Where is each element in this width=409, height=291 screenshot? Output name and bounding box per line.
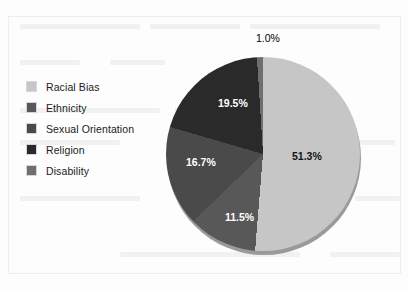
- legend-swatch-icon-disability: [26, 165, 37, 176]
- slice-label-sexual-orientation: 16.7%: [186, 156, 216, 168]
- legend-item-racial-bias[interactable]: Racial Bias: [26, 76, 186, 97]
- chart-page: Racial Bias Ethnicity Sexual Orientation…: [0, 0, 409, 291]
- legend-item-disability[interactable]: Disability: [26, 160, 186, 181]
- legend-item-ethnicity[interactable]: Ethnicity: [26, 97, 186, 118]
- legend-item-sexual-orientation[interactable]: Sexual Orientation: [26, 118, 186, 139]
- legend-swatch-icon-religion: [26, 144, 37, 155]
- legend-label-disability: Disability: [46, 165, 89, 177]
- legend-swatch-icon-sexual-orientation: [26, 123, 37, 134]
- legend-item-religion[interactable]: Religion: [26, 139, 186, 160]
- legend-label-sexual-orientation: Sexual Orientation: [46, 123, 134, 135]
- legend-swatch-icon-ethnicity: [26, 102, 37, 113]
- slice-label-ethnicity: 11.5%: [225, 211, 254, 223]
- chart-legend: Racial Bias Ethnicity Sexual Orientation…: [26, 76, 186, 181]
- legend-swatch-icon-racial-bias: [26, 81, 37, 92]
- legend-label-racial-bias: Racial Bias: [46, 81, 100, 93]
- legend-label-ethnicity: Ethnicity: [46, 102, 87, 114]
- slice-label-religion: 19.5%: [218, 97, 248, 109]
- pie-disc[interactable]: [166, 57, 360, 251]
- legend-label-religion: Religion: [46, 144, 85, 156]
- pie-chart: 19.5% 16.7% 11.5% 51.3% 1.0%: [166, 57, 362, 253]
- slice-label-racial-bias: 51.3%: [292, 150, 322, 162]
- slice-label-disability: 1.0%: [256, 32, 280, 44]
